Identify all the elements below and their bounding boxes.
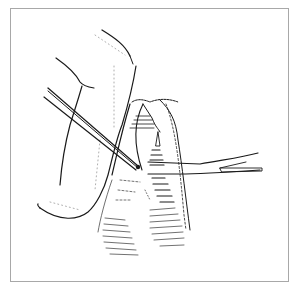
shaded-tissue <box>98 180 184 255</box>
forceps <box>44 88 140 170</box>
surgical-illustration <box>0 0 298 290</box>
scissors <box>148 153 262 174</box>
